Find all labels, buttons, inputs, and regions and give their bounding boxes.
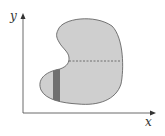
y-axis-label: y (9, 9, 17, 23)
x-axis-label: x (145, 115, 152, 129)
region-shape (40, 19, 123, 105)
y-axis-arrow-icon (21, 13, 26, 19)
diagram: y x (0, 0, 165, 136)
vertical-strip (53, 60, 60, 110)
